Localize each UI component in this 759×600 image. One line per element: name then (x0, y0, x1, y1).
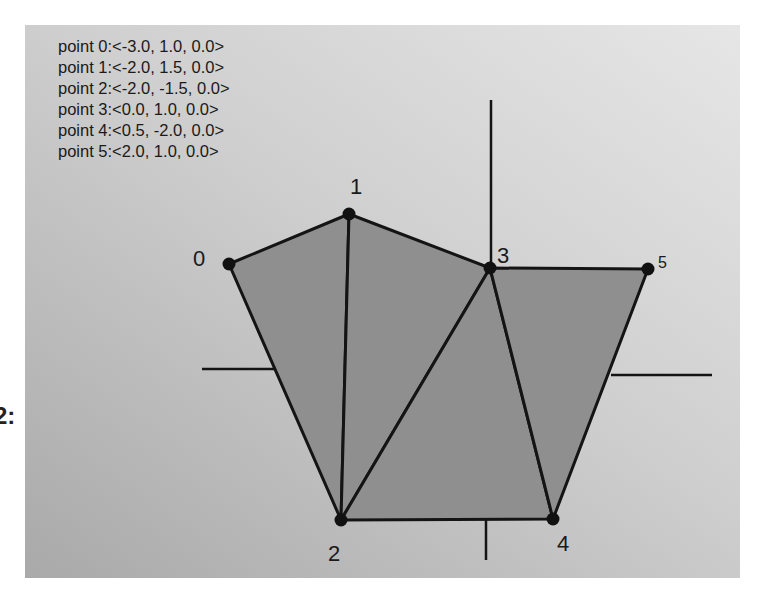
vertex-2 (335, 514, 348, 527)
vertex-label-0: 0 (193, 246, 205, 271)
triangle-0 (229, 214, 349, 520)
vertex-5 (642, 263, 655, 276)
triangulation-diagram: 012345 (0, 0, 759, 600)
triangle-mesh (229, 214, 648, 520)
vertex-4 (547, 513, 560, 526)
vertex-1 (343, 208, 356, 221)
vertex-label-1: 1 (350, 174, 362, 199)
vertex-label-5: 5 (658, 254, 667, 271)
vertex-3 (484, 262, 497, 275)
vertex-label-4: 4 (557, 531, 569, 556)
vertex-label-3: 3 (497, 243, 509, 268)
vertex-0 (223, 258, 236, 271)
vertex-label-2: 2 (328, 541, 340, 566)
